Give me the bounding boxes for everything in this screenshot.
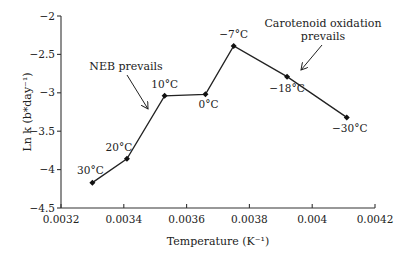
y-tick-label: −4.5 [30, 202, 56, 214]
x-tick-label: 0.0032 [43, 213, 80, 225]
x-axis: 0.00320.00340.00360.00380.0040.0042 [43, 204, 394, 225]
x-axis-title: Temperature (K⁻¹) [167, 235, 270, 248]
y-tick-label: −3 [40, 86, 55, 98]
arrow-icon [301, 45, 322, 70]
data-series: 30°C20°C10°C0°C−7°C−18°C−30°C [77, 28, 367, 186]
x-tick-label: 0.0034 [105, 213, 142, 225]
data-point-label: 30°C [77, 164, 104, 176]
x-tick-label: 0.0036 [168, 213, 205, 225]
line-chart: −2−2.5−3−3.5−4−4.5 0.00320.00340.00360.0… [0, 0, 410, 257]
y-tick-label: −4 [40, 163, 56, 175]
y-tick-label: −2.5 [30, 48, 56, 60]
y-tick-label: −2 [40, 10, 55, 22]
y-axis-title: Ln k (b*day⁻¹) [21, 72, 34, 151]
data-point-label: 20°C [106, 141, 133, 153]
arrow-icon [127, 75, 148, 109]
annotation-carotenoid-oxidation: Carotenoid oxidation [264, 17, 381, 30]
x-tick-label: 0.0038 [231, 213, 268, 225]
data-point-label: 0°C [198, 98, 218, 110]
data-point-label: −7°C [219, 28, 248, 40]
annotation-carotenoid-oxidation-line2: prevails [301, 30, 346, 43]
data-point-label: −18°C [269, 82, 304, 94]
data-point-label: 10°C [151, 78, 178, 90]
x-tick-label: 0.004 [297, 213, 327, 225]
x-tick-label: 0.0042 [357, 213, 394, 225]
y-axis: −2−2.5−3−3.5−4−4.5 [30, 10, 62, 214]
data-point-marker [231, 43, 237, 49]
data-point-label: −30°C [332, 122, 367, 134]
data-point-marker [202, 91, 208, 97]
data-point-marker [162, 93, 168, 99]
annotation-neb-prevails: NEB prevails [89, 60, 163, 73]
